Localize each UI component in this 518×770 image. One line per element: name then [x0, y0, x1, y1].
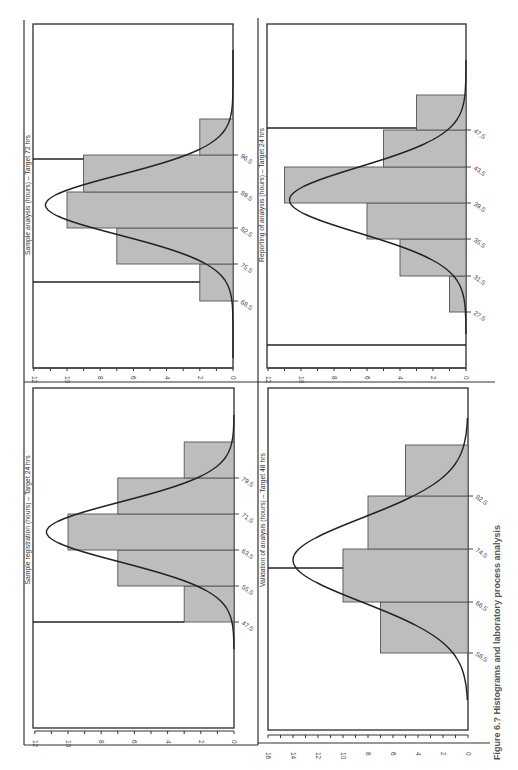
axis-label: 12 — [315, 752, 322, 760]
bin-edge-label: 47.5 — [240, 619, 255, 632]
axis-label: 0 — [463, 376, 470, 380]
histogram-bar — [417, 95, 467, 130]
axis-label: 8 — [365, 752, 372, 756]
bin-edge-label: 31.5 — [472, 273, 487, 286]
axis-label: 4 — [397, 376, 404, 380]
histogram-bar — [381, 602, 469, 653]
histogram-bar — [118, 478, 234, 514]
axis-label: 16 — [265, 752, 272, 760]
axis-label: 6 — [390, 752, 397, 756]
axis-label: 10 — [64, 376, 71, 384]
axis-label: 8 — [331, 376, 338, 380]
axis-label: 8 — [97, 376, 104, 380]
histogram-bar — [343, 549, 468, 602]
histogram-figure: 68.575.582.589.596.5024681012Sample anal… — [0, 0, 518, 770]
panel-title: Sample registration (hours) – Target 24 … — [24, 455, 32, 585]
bin-edge-label: 35.5 — [472, 236, 487, 249]
histogram-bar — [285, 167, 467, 203]
axis-label: 10 — [298, 376, 305, 384]
axis-label: 2 — [440, 752, 447, 756]
bin-edge-label: 89.5 — [239, 189, 254, 202]
axis-label: 4 — [415, 752, 422, 756]
bin-edge-label: 39.5 — [472, 200, 487, 213]
panel-reporting-of-analysis: 27.531.535.539.543.547.5024681012Reporti… — [258, 24, 487, 384]
bin-edge-label: 71.5 — [240, 511, 255, 524]
histogram-bar — [68, 514, 234, 550]
bin-edge-label: 75.5 — [239, 261, 254, 274]
histogram-bar — [84, 155, 233, 192]
bin-edge-label: 68.5 — [239, 298, 254, 311]
axis-label: 12 — [32, 740, 39, 748]
panel-title: Sample analysis (hours) – Target 72 hrs — [24, 134, 32, 255]
axis-label: 2 — [430, 376, 437, 380]
axis-label: 6 — [364, 376, 371, 380]
axis-label: 10 — [65, 740, 72, 748]
axis-label: 10 — [340, 752, 347, 760]
axis-label: 0 — [465, 752, 472, 756]
bin-edge-label: 47.5 — [472, 127, 487, 140]
histogram-bar — [184, 442, 234, 478]
histogram-bar — [118, 550, 234, 586]
panel-title: Validation of analysis (hours) – Target … — [259, 452, 267, 586]
histogram-bar — [184, 586, 234, 622]
bin-edge-label: 79.5 — [240, 475, 255, 488]
histogram-bar — [200, 264, 233, 301]
bin-edge-label: 66.5 — [474, 599, 489, 612]
axis-label: 12 — [265, 376, 272, 384]
bin-edge-label: 55.5 — [240, 583, 255, 596]
histogram-bar — [384, 130, 467, 167]
axis-label: 8 — [98, 740, 105, 744]
histogram-bar — [406, 445, 469, 496]
bin-edge-label: 63.5 — [240, 547, 255, 560]
histogram-bar — [400, 239, 466, 276]
axis-label: 14 — [290, 752, 297, 760]
panel-sample-registration: 47.555.563.571.579.5024681012Sample regi… — [24, 388, 255, 748]
histogram-bar — [368, 496, 468, 549]
axis-label: 12 — [31, 376, 38, 384]
panel-title: Reporting of analysis (hours) – Target 2… — [258, 127, 266, 262]
axis-label: 0 — [231, 740, 238, 744]
axis-label: 2 — [197, 376, 204, 380]
histogram-bar — [367, 203, 466, 239]
panel-validation-of-analysis: 58.566.574.582.50246810121416Validation … — [259, 388, 489, 760]
axis-label: 6 — [130, 376, 137, 380]
histogram-bar — [117, 228, 233, 264]
axis-label: 2 — [198, 740, 205, 744]
bin-edge-label: 96.5 — [239, 152, 254, 165]
bin-edge-label: 58.5 — [474, 650, 489, 663]
bin-edge-label: 43.5 — [472, 164, 487, 177]
bin-edge-label: 74.5 — [474, 546, 489, 559]
axis-label: 0 — [230, 376, 237, 380]
bin-edge-label: 82.5 — [239, 225, 254, 238]
panel-sample-analysis: 68.575.582.589.596.5024681012Sample anal… — [24, 24, 254, 384]
bin-edge-label: 27.5 — [472, 309, 487, 322]
bin-edge-label: 82.5 — [474, 493, 489, 506]
histogram-bar — [67, 192, 233, 228]
axis-label: 4 — [164, 376, 171, 380]
axis-label: 4 — [165, 740, 172, 744]
figure-caption: Figure 6.? Histograms and laboratory pro… — [492, 525, 502, 760]
axis-label: 6 — [131, 740, 138, 744]
